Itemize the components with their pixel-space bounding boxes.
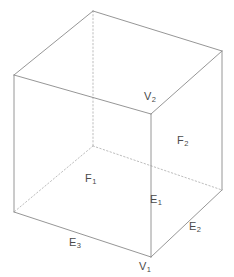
cube-wireframe: [0, 0, 234, 277]
edge-label-e2-sub: 2: [197, 225, 201, 234]
edge-top-right-to-top-front: [151, 51, 222, 114]
edge-label-e2-base: E: [189, 220, 197, 232]
face-label-f1-sub: 1: [92, 177, 96, 186]
edge-top-back-to-top-right: [93, 11, 222, 51]
vertex-label-v1-sub: 1: [147, 265, 151, 274]
hidden-edge-bottom-back-to-bottom-left: [14, 146, 93, 212]
hidden-edge-bottom-back-to-bottom-right: [93, 146, 222, 190]
edge-label-e1-base: E: [150, 193, 158, 205]
vertex-label-v2-base: V: [144, 90, 152, 102]
edge-label-e1: E1: [150, 194, 162, 205]
edge-label-e3: E3: [69, 237, 81, 248]
edge-e3-bottom-left-to-bottom-front: [14, 212, 151, 257]
edge-label-e1-sub: 1: [158, 198, 162, 207]
cube-diagram: V1 V2 E1 E2 E3 F1 F2: [0, 0, 234, 277]
edge-top-back-to-top-left: [14, 11, 93, 75]
vertex-label-v1-base: V: [139, 260, 147, 272]
face-label-f1: F1: [85, 173, 96, 184]
face-label-f1-base: F: [85, 172, 92, 184]
face-label-f2: F2: [177, 135, 188, 146]
vertex-label-v2: V2: [144, 91, 156, 102]
face-label-f2-base: F: [177, 134, 184, 146]
edge-label-e2: E2: [189, 221, 201, 232]
edge-label-e3-sub: 3: [77, 241, 81, 250]
face-label-f2-sub: 2: [184, 139, 188, 148]
vertex-label-v2-sub: 2: [152, 95, 156, 104]
edge-label-e3-base: E: [69, 236, 77, 248]
vertex-label-v1: V1: [139, 261, 151, 272]
edge-top-left-to-top-front: [14, 75, 151, 114]
